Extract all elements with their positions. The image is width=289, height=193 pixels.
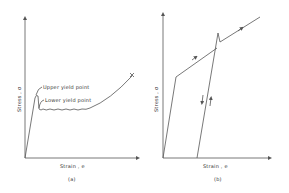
panel-b-x-axis-label: Strain , e xyxy=(203,163,228,169)
panel-a-caption: (a) xyxy=(68,176,76,182)
panel-b-loading-curve xyxy=(163,48,217,158)
panel-a-x-axis-label: Strain , e xyxy=(60,163,85,169)
upper-yield-point-label: Upper yield point xyxy=(43,84,89,90)
lower-yield-point-label: Lower yield point xyxy=(45,97,91,103)
panel-a-y-axis-label: Stress , σ xyxy=(16,87,22,112)
upper-yield-leader xyxy=(36,87,42,95)
panel-b-diagram xyxy=(163,14,270,158)
panel-b-unload-reload xyxy=(197,17,260,158)
panel-b-caption: (b) xyxy=(214,176,222,182)
lower-yield-leader xyxy=(39,100,44,108)
stress-strain-figure xyxy=(0,0,289,193)
panel-b-y-axis-label: Stress , σ xyxy=(153,87,159,112)
